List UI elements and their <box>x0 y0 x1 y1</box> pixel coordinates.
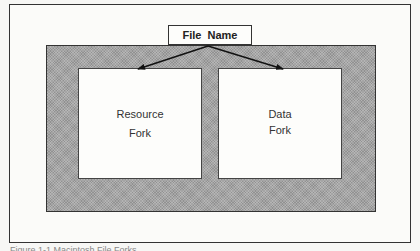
resource-fork-label-line2: Fork <box>79 126 201 141</box>
figure-caption: Figure 1-1 Macintosh File Forks <box>10 245 137 251</box>
data-fork-label-line2: Fork <box>219 123 341 138</box>
resource-fork-label: Resource Fork <box>79 107 201 141</box>
file-name-box: File Name <box>168 25 252 45</box>
data-fork-label: Data Fork <box>219 107 341 138</box>
diagram-stage: Resource Fork Data Fork File Name Figure… <box>0 0 420 251</box>
resource-fork-box: Resource Fork <box>78 68 202 179</box>
data-fork-label-line1: Data <box>219 107 341 122</box>
resource-fork-label-line1: Resource <box>79 107 201 122</box>
data-fork-box: Data Fork <box>218 68 342 179</box>
